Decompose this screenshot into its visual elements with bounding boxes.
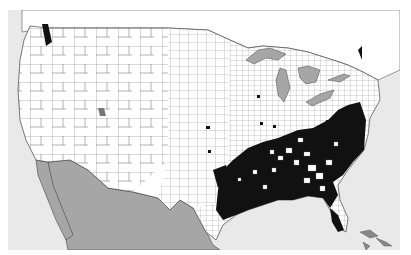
caribbean-islands	[360, 230, 392, 250]
map-frame	[8, 10, 400, 250]
us-county-map	[8, 10, 400, 250]
